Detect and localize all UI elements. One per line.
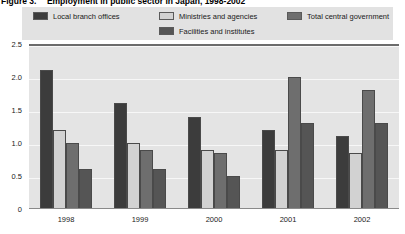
bar-group-1998 xyxy=(29,46,103,209)
bar xyxy=(188,117,201,209)
bar-group-2001 xyxy=(251,46,325,209)
legend-swatch-total-central-government xyxy=(287,12,302,20)
y-axis-tick-label: 1.0 xyxy=(12,139,22,148)
bar xyxy=(140,150,153,209)
legend-row-2: Facilities and institutes xyxy=(22,24,393,38)
y-axis-tick-label: 2.5 xyxy=(12,40,22,49)
bar xyxy=(79,169,92,209)
plot-area xyxy=(29,44,399,209)
bar xyxy=(227,176,240,209)
y-axis-tick-label: 1.5 xyxy=(12,106,22,115)
figure-title: Employment in public sector in Japan, 19… xyxy=(47,0,245,6)
x-axis: 19981999200020012002 xyxy=(29,209,399,231)
bar-groups xyxy=(29,46,399,209)
bar xyxy=(40,70,53,209)
x-axis-tick-label: 2002 xyxy=(325,209,399,231)
plot-wrapper: 00.51.01.52.02.5 19981999200020012002 xyxy=(0,44,405,234)
bar xyxy=(275,150,288,209)
bar xyxy=(114,103,127,209)
x-axis-tick-label: 1998 xyxy=(29,209,103,231)
legend-row-1: Local branch offices Ministries and agen… xyxy=(22,9,393,23)
chart-legend: Local branch offices Ministries and agen… xyxy=(22,7,393,40)
legend-label-total-central-government: Total central government xyxy=(307,12,389,21)
bar xyxy=(288,77,301,209)
bar xyxy=(66,143,79,209)
bar xyxy=(336,136,349,209)
y-axis-tick-label: 0.5 xyxy=(12,172,22,181)
x-axis-tick-label: 2000 xyxy=(177,209,251,231)
bar xyxy=(349,153,362,209)
figure-number: Figure 3. xyxy=(1,0,36,6)
y-axis: 00.51.01.52.02.5 xyxy=(0,44,26,209)
bar-group-2002 xyxy=(325,46,399,209)
legend-swatch-facilities-and-institutes xyxy=(159,27,174,35)
bar-group-1999 xyxy=(103,46,177,209)
figure-title-row: Figure 3. Employment in public sector in… xyxy=(0,0,405,7)
y-axis-tick-label: 2.0 xyxy=(12,73,22,82)
bar-group-2000 xyxy=(177,46,251,209)
legend-item-local-branch-offices: Local branch offices xyxy=(33,9,120,23)
bar xyxy=(362,90,375,209)
bar xyxy=(127,143,140,209)
legend-item-ministries-and-agencies: Ministries and agencies xyxy=(159,9,257,23)
x-axis-tick-label: 2001 xyxy=(251,209,325,231)
legend-item-facilities-and-institutes: Facilities and institutes xyxy=(159,24,254,38)
legend-swatch-ministries-and-agencies xyxy=(159,12,174,20)
x-axis-tick-label: 1999 xyxy=(103,209,177,231)
bar xyxy=(262,130,275,209)
y-axis-tick-label: 0 xyxy=(18,205,22,214)
bar xyxy=(375,123,388,209)
bar xyxy=(53,130,66,209)
bar xyxy=(153,169,166,209)
legend-label-local-branch-offices: Local branch offices xyxy=(53,12,120,21)
bar xyxy=(214,153,227,209)
legend-label-facilities-and-institutes: Facilities and institutes xyxy=(179,27,254,36)
legend-label-ministries-and-agencies: Ministries and agencies xyxy=(179,12,257,21)
legend-item-total-central-government: Total central government xyxy=(287,9,389,23)
bar xyxy=(201,150,214,209)
legend-swatch-local-branch-offices xyxy=(33,12,48,20)
bar xyxy=(301,123,314,209)
figure-container: Figure 3. Employment in public sector in… xyxy=(0,0,405,234)
